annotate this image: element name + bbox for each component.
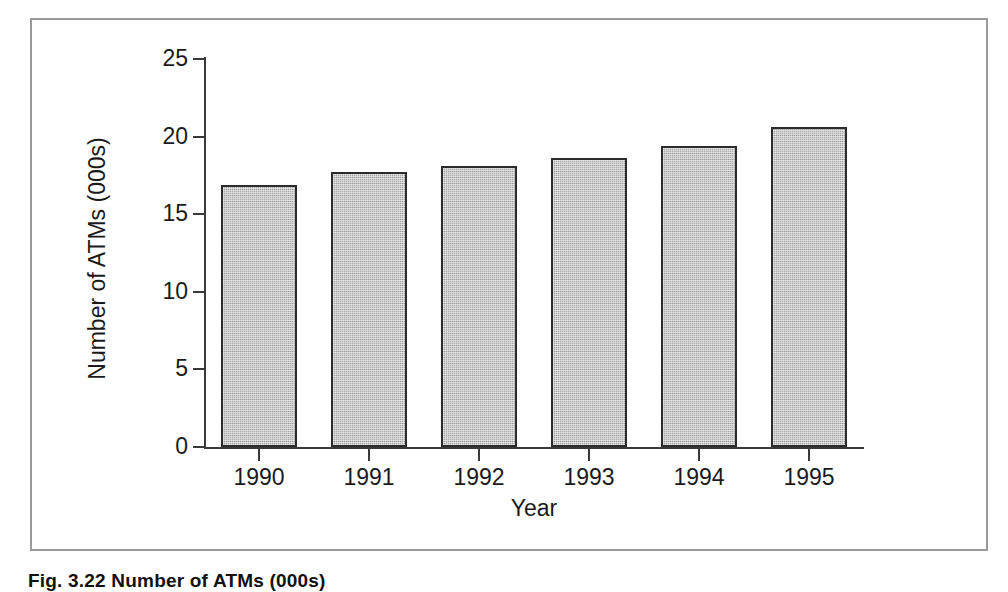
figure-caption: Fig. 3.22 Number of ATMs (000s) xyxy=(28,570,326,592)
figure-frame xyxy=(30,18,988,551)
